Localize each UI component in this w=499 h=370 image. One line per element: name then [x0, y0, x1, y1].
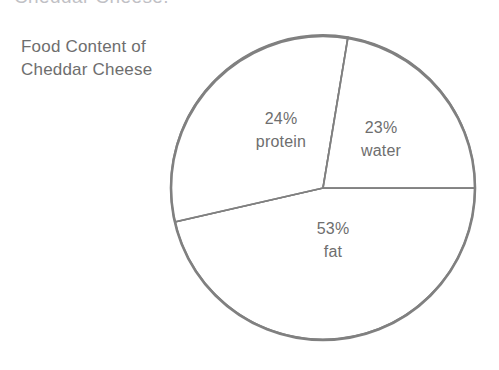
- pie-label-fat-percent: 53%: [317, 217, 350, 240]
- pie-label-protein: 24% protein: [256, 107, 306, 153]
- pie-label-fat: 53% fat: [317, 217, 350, 263]
- pie-label-water: 23% water: [361, 116, 401, 162]
- pie-label-water-name: water: [361, 139, 401, 162]
- pie-label-protein-name: protein: [256, 130, 306, 153]
- pie-label-fat-name: fat: [317, 240, 350, 263]
- pie-diagram: [0, 0, 499, 370]
- pie-label-protein-percent: 24%: [256, 107, 306, 130]
- pie-label-water-percent: 23%: [361, 116, 401, 139]
- pie-slice-water: [323, 37, 475, 188]
- pie-chart-figure: Cheddar Cheese. Food Content of Cheddar …: [0, 0, 499, 370]
